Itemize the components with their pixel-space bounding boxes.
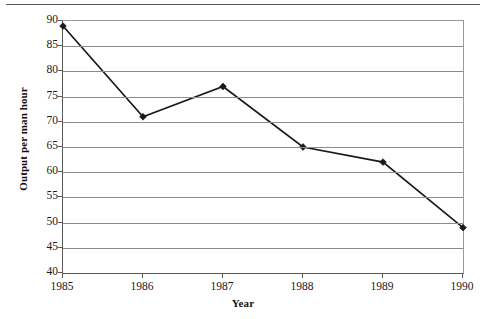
y-tick-label-40: 40 bbox=[24, 266, 58, 278]
x-tick-label-1987: 1987 bbox=[192, 280, 252, 292]
y-tick-label-50: 50 bbox=[24, 216, 58, 228]
x-tick-mark-1985 bbox=[62, 273, 63, 278]
top-divider-rule bbox=[6, 4, 480, 5]
gridline-60 bbox=[63, 172, 463, 173]
x-axis-title: Year bbox=[0, 297, 486, 309]
gridline-65 bbox=[63, 147, 463, 148]
gridline-75 bbox=[63, 97, 463, 98]
x-tick-mark-1988 bbox=[302, 273, 303, 278]
x-tick-label-1988: 1988 bbox=[272, 280, 332, 292]
y-tick-label-45: 45 bbox=[24, 241, 58, 253]
gridline-70 bbox=[63, 122, 463, 123]
x-tick-mark-1990 bbox=[462, 273, 463, 278]
x-tick-label-1985: 1985 bbox=[32, 280, 92, 292]
x-tick-label-1990: 1990 bbox=[432, 280, 486, 292]
y-axis-title: Output per man hour bbox=[17, 49, 29, 229]
x-axis-ticks: 198519861987198819891990 bbox=[62, 273, 463, 297]
x-tick-label-1986: 1986 bbox=[112, 280, 172, 292]
y-tick-label-65: 65 bbox=[24, 140, 58, 152]
y-tick-label-75: 75 bbox=[24, 90, 58, 102]
gridline-80 bbox=[63, 71, 463, 72]
gridline-85 bbox=[63, 46, 463, 47]
y-tick-label-90: 90 bbox=[24, 14, 58, 26]
gridline-55 bbox=[63, 197, 463, 198]
gridline-50 bbox=[63, 223, 463, 224]
gridline-45 bbox=[63, 248, 463, 249]
y-tick-label-85: 85 bbox=[24, 39, 58, 51]
x-tick-mark-1987 bbox=[222, 273, 223, 278]
y-tick-label-55: 55 bbox=[24, 191, 58, 203]
line-chart-figure: 4045505560657075808590 19851986198719881… bbox=[0, 0, 486, 319]
x-tick-mark-1989 bbox=[382, 273, 383, 278]
series-markers bbox=[60, 23, 467, 231]
y-tick-label-60: 60 bbox=[24, 165, 58, 177]
y-tick-label-70: 70 bbox=[24, 115, 58, 127]
plot-area bbox=[62, 20, 464, 274]
x-tick-mark-1986 bbox=[142, 273, 143, 278]
x-tick-label-1989: 1989 bbox=[352, 280, 412, 292]
y-tick-label-80: 80 bbox=[24, 65, 58, 77]
